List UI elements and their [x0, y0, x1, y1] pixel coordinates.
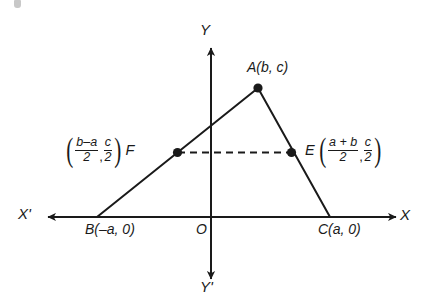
- close-paren: ): [114, 136, 121, 164]
- origin-label: O: [196, 222, 207, 236]
- close-paren: ): [374, 136, 381, 164]
- y-axis-label: Y: [200, 22, 210, 37]
- point-e-tag: E: [303, 143, 317, 158]
- fraction-x-numerator: b–a: [75, 136, 98, 151]
- point-e-dot: [287, 148, 296, 157]
- point-f-tag: F: [123, 143, 136, 158]
- fraction-y: c 2: [364, 136, 372, 164]
- open-paren: (: [66, 136, 73, 164]
- point-a-label: A(b, c): [247, 60, 288, 74]
- point-e-coordinate-annotation: E ( a + b 2 , c 2 ): [303, 136, 383, 164]
- x-negative-axis-label: X': [18, 206, 31, 221]
- fraction-y-numerator: c: [104, 136, 112, 151]
- fraction-y-denominator: 2: [104, 151, 111, 165]
- fraction-x-denominator: 2: [83, 151, 90, 165]
- fraction-x-numerator: a + b: [328, 136, 358, 151]
- geometry-figure: Y Y' X X' O A(b, c) B(–a, 0) C(a, 0) ( b…: [0, 0, 424, 304]
- fraction-y-denominator: 2: [364, 151, 371, 165]
- point-f-coordinate-annotation: ( b–a 2 , c 2 ) F: [64, 136, 136, 164]
- open-paren: (: [319, 136, 326, 164]
- fraction-x: b–a 2: [75, 136, 98, 164]
- fraction-x: a + b 2: [328, 136, 358, 164]
- point-f-dot: [173, 148, 182, 157]
- point-b-label: B(–a, 0): [85, 222, 135, 236]
- point-a-dot: [253, 83, 262, 92]
- y-negative-axis-label: Y': [200, 279, 213, 294]
- point-c-label: C(a, 0): [318, 222, 361, 236]
- fraction-y: c 2: [104, 136, 112, 164]
- fraction-y-numerator: c: [364, 136, 372, 151]
- x-axis-label: X: [400, 207, 410, 222]
- fraction-x-denominator: 2: [340, 151, 347, 165]
